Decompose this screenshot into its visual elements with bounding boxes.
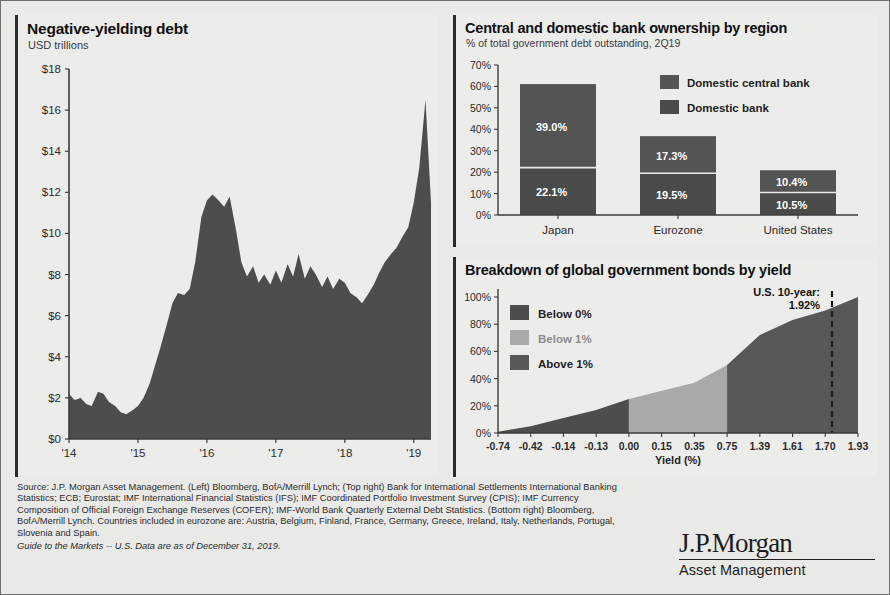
panel-bank-ownership: Central and domestic bank ownership by r… xyxy=(453,15,877,247)
x-axis-label: 1.61 xyxy=(782,440,803,452)
y-axis-label: $10 xyxy=(42,227,61,239)
bar-group: 10.4%10.5% xyxy=(760,170,836,215)
source-line-1: Source: J.P. Morgan Asset Management. (L… xyxy=(17,482,717,493)
category-label: Eurozone xyxy=(653,224,702,236)
area-band-below-0 xyxy=(498,399,629,433)
x-axis-label: '16 xyxy=(199,447,214,459)
bar-value-label-upper: 10.4% xyxy=(776,176,807,188)
x-axis-label: 1.70 xyxy=(815,440,836,452)
x-axis-title: Yield (%) xyxy=(655,454,701,466)
bottom-right-panel-title: Breakdown of global government bonds by … xyxy=(465,262,877,278)
legend-label: Domestic bank xyxy=(687,102,769,114)
area-band-above-1 xyxy=(727,297,858,433)
y-axis-label: 40% xyxy=(470,373,491,385)
legend-label: Below 0% xyxy=(538,308,592,320)
source-line-2: Statistics; ECB; Eurostat; IMF Internati… xyxy=(17,493,717,504)
annotation-us-10-year-label: U.S. 10-year: xyxy=(753,286,820,298)
negative-yielding-debt-area-chart: $0$2$4$6$8$10$12$14$16$18'14'15'16'17'18… xyxy=(25,61,437,473)
y-axis-label: 100% xyxy=(464,291,491,303)
y-axis-label: $4 xyxy=(48,351,61,363)
legend-swatch xyxy=(660,75,679,89)
y-axis-label: $18 xyxy=(42,63,61,75)
y-axis-label: $0 xyxy=(48,433,61,445)
bar-value-label-upper: 39.0% xyxy=(536,121,567,133)
logo-tagline: Asset Management xyxy=(679,560,875,580)
bank-ownership-bar-chart: 0%10%20%30%40%50%60%70%39.0%22.1%Japan17… xyxy=(458,59,873,245)
x-axis-label: -0.14 xyxy=(551,440,575,452)
y-axis-label: $6 xyxy=(48,310,61,322)
logo-brand: J.P.Morgan xyxy=(679,528,875,560)
x-axis-label: 1.39 xyxy=(750,440,771,452)
legend-label: Domestic central bank xyxy=(687,77,810,89)
x-axis-label: '15 xyxy=(130,447,145,459)
bonds-by-yield-area-chart: 0%20%40%60%80%100%-0.74-0.42-0.14-0.130.… xyxy=(458,283,873,477)
y-axis-label: 10% xyxy=(470,188,491,200)
legend-swatch xyxy=(510,305,529,320)
bar-group: 39.0%22.1% xyxy=(520,84,596,215)
x-axis-label: -0.13 xyxy=(584,440,608,452)
y-axis-label: 0% xyxy=(476,427,491,439)
x-axis-label: 1.93 xyxy=(848,440,869,452)
y-axis-label: 70% xyxy=(470,59,491,71)
y-axis-label: $12 xyxy=(42,186,61,198)
y-axis-label: $16 xyxy=(42,104,61,116)
source-line-3: Composition of Official Foreign Exchange… xyxy=(17,505,717,516)
y-axis-label: $2 xyxy=(48,392,61,404)
legend-swatch xyxy=(510,330,529,345)
left-panel-title: Negative-yielding debt xyxy=(27,20,439,38)
y-axis-label: $14 xyxy=(42,145,62,157)
legend-swatch xyxy=(510,355,529,370)
jpmorgan-logo: J.P.Morgan Asset Management xyxy=(679,528,875,580)
y-axis-label: 20% xyxy=(470,166,491,178)
x-axis-label: 0.00 xyxy=(619,440,640,452)
panel-bonds-by-yield: Breakdown of global government bonds by … xyxy=(453,257,877,477)
bar-value-label-lower: 22.1% xyxy=(536,186,567,198)
category-label: Japan xyxy=(542,224,573,236)
x-axis-label: 0.75 xyxy=(717,440,738,452)
y-axis-label: 50% xyxy=(470,102,491,114)
panel-negative-yielding-debt: Negative-yielding debt USD trillions $0$… xyxy=(15,15,439,477)
left-panel-subtitle: USD trillions xyxy=(28,39,439,51)
y-axis-label: 60% xyxy=(470,345,491,357)
guide-to-markets-line: Guide to the Markets -- U.S. Data are as… xyxy=(17,541,717,552)
area-band-below-1 xyxy=(629,365,727,433)
bar-group: 17.3%19.5% xyxy=(640,136,716,215)
x-axis-label: -0.42 xyxy=(519,440,543,452)
top-right-panel-title: Central and domestic bank ownership by r… xyxy=(465,20,877,36)
legend-label: Above 1% xyxy=(538,358,593,370)
area-series-negative-yielding-debt xyxy=(69,100,431,439)
y-axis-label: 30% xyxy=(470,145,491,157)
x-axis-label: '18 xyxy=(337,447,352,459)
y-axis-label: $8 xyxy=(48,269,61,281)
y-axis-label: 80% xyxy=(470,318,491,330)
y-axis-label: 60% xyxy=(470,80,491,92)
x-axis-label: '19 xyxy=(406,447,421,459)
y-axis-label: 0% xyxy=(476,209,491,221)
y-axis-label: 20% xyxy=(470,400,491,412)
x-axis-label: '14 xyxy=(62,447,78,459)
y-axis-label: 40% xyxy=(470,123,491,135)
bar-value-label-lower: 10.5% xyxy=(776,199,807,211)
top-right-panel-subtitle: % of total government debt outstanding, … xyxy=(466,37,877,49)
x-axis-label: '17 xyxy=(268,447,283,459)
source-footnote: Source: J.P. Morgan Asset Management. (L… xyxy=(17,482,717,552)
legend-label: Below 1% xyxy=(538,333,592,345)
source-line-5: Slovenia and Spain. xyxy=(17,528,717,539)
x-axis-label: 0.15 xyxy=(651,440,672,452)
annotation-us-10-year-value: 1.92% xyxy=(789,299,820,311)
guide-to-the-markets-slide: Negative-yielding debt USD trillions $0$… xyxy=(0,0,890,595)
category-label: United States xyxy=(763,224,832,236)
bar-value-label-upper: 17.3% xyxy=(656,150,687,162)
x-axis-label: 0.35 xyxy=(684,440,705,452)
x-axis-label: -0.74 xyxy=(486,440,510,452)
legend-swatch xyxy=(660,100,679,114)
source-line-4: BofA/Merrill Lynch. Countries included i… xyxy=(17,516,717,527)
bar-value-label-lower: 19.5% xyxy=(656,189,687,201)
